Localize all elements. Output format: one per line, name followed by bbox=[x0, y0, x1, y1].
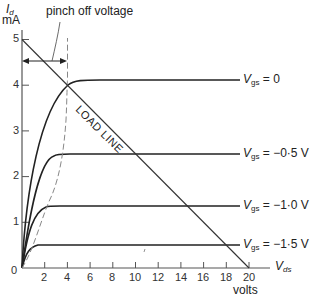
curve-symbol: V bbox=[243, 198, 251, 212]
curve-vgs-minus-1.0 bbox=[22, 206, 240, 268]
x-tick-2: 2 bbox=[41, 271, 47, 283]
y-axis-unit: mA bbox=[2, 13, 20, 27]
x-tick-14: 14 bbox=[175, 271, 187, 283]
y-tick-2: 2 bbox=[13, 169, 19, 181]
x-axis-title: Vds bbox=[275, 259, 291, 274]
x-tick-20: 20 bbox=[243, 271, 255, 283]
curve-label-vgs-minus-1.5: Vgs = −1·5 V bbox=[243, 237, 309, 252]
x-tick-6: 6 bbox=[87, 271, 93, 283]
x-tick-8: 8 bbox=[109, 271, 115, 283]
curve-value: = 0 bbox=[259, 72, 279, 86]
stray-mark bbox=[144, 249, 145, 252]
curve-value: = −1·0 V bbox=[259, 198, 308, 212]
y-tick-1: 1 bbox=[13, 215, 19, 227]
curve-value: = −0·5 V bbox=[259, 146, 308, 160]
y-tick-0: 0 bbox=[11, 264, 17, 276]
y-tick-3: 3 bbox=[13, 124, 19, 136]
arrow-right-head bbox=[60, 58, 67, 64]
curve-vgs-minus-1.5 bbox=[22, 245, 240, 268]
arrow-left-head bbox=[22, 58, 29, 64]
curve-symbol: V bbox=[243, 237, 251, 251]
y-tick-4: 4 bbox=[13, 78, 19, 90]
x-tick-10: 10 bbox=[129, 271, 141, 283]
curve-vgs-0 bbox=[22, 80, 240, 268]
x-tick-16: 16 bbox=[197, 271, 209, 283]
curve-value: = −1·5 V bbox=[259, 237, 308, 251]
curve-symbol: V bbox=[243, 146, 251, 160]
curve-label-vgs-0: Vgs = 0 bbox=[243, 72, 280, 87]
curve-symbol: V bbox=[243, 72, 251, 86]
x-tick-12: 12 bbox=[152, 271, 164, 283]
x-axis-sub: ds bbox=[283, 265, 291, 274]
y-tick-5: 5 bbox=[13, 32, 19, 44]
x-axis-unit: volts bbox=[233, 283, 258, 297]
pinch-off-label: pinch off voltage bbox=[46, 4, 133, 18]
curve-vgs-minus-0.5 bbox=[22, 154, 240, 268]
x-ticks bbox=[45, 262, 249, 268]
y-ticks bbox=[22, 40, 29, 223]
x-tick-18: 18 bbox=[220, 271, 232, 283]
curve-label-vgs-minus-0.5: Vgs = −0·5 V bbox=[243, 146, 309, 161]
curve-label-vgs-minus-1.0: Vgs = −1·0 V bbox=[243, 198, 309, 213]
x-axis-symbol: V bbox=[275, 259, 283, 273]
x-tick-4: 4 bbox=[64, 271, 70, 283]
pinch-off-leader bbox=[52, 22, 60, 61]
